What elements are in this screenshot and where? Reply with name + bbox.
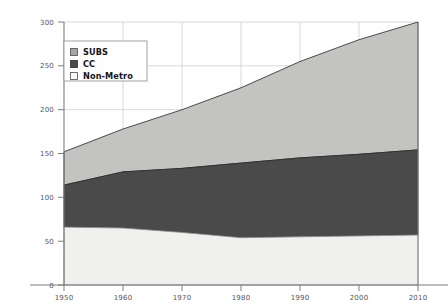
- ytick-label-0: 0: [49, 282, 54, 290]
- x-axis-tick-labels: 1950 1960 1970 1980 1990 2000 2010: [55, 294, 428, 302]
- stacked-area-chart: 300 250 200 150 100 50 0 1950 1960 1970 …: [0, 0, 448, 308]
- xtick-label-1950: 1950: [55, 294, 74, 302]
- legend-label-cc: CC: [83, 59, 95, 69]
- xtick-label-1990: 1990: [291, 294, 310, 302]
- x-axis-ticks: [64, 285, 418, 291]
- ytick-label-150: 150: [40, 150, 54, 158]
- ytick-label-250: 250: [40, 62, 54, 70]
- xtick-label-1960: 1960: [114, 294, 133, 302]
- legend-swatch-subs: [71, 49, 78, 56]
- xtick-label-1980: 1980: [232, 294, 251, 302]
- ytick-label-100: 100: [40, 194, 54, 202]
- legend-swatch-cc: [71, 61, 78, 68]
- xtick-label-2000: 2000: [350, 294, 369, 302]
- legend-swatch-non-metro: [71, 73, 78, 80]
- ytick-label-200: 200: [40, 106, 54, 114]
- y-axis-ticks: [58, 22, 64, 285]
- xtick-label-2010: 2010: [409, 294, 428, 302]
- legend-label-non-metro: Non-Metro: [83, 71, 133, 81]
- ytick-label-50: 50: [45, 238, 54, 246]
- legend-label-subs: SUBS: [83, 47, 108, 57]
- y-axis-tick-labels: 300 250 200 150 100 50 0: [40, 19, 54, 290]
- chart-legend: SUBS CC Non-Metro: [64, 41, 147, 81]
- ytick-label-300: 300: [40, 19, 54, 27]
- xtick-label-1970: 1970: [173, 294, 192, 302]
- chart-canvas: 300 250 200 150 100 50 0 1950 1960 1970 …: [0, 0, 448, 308]
